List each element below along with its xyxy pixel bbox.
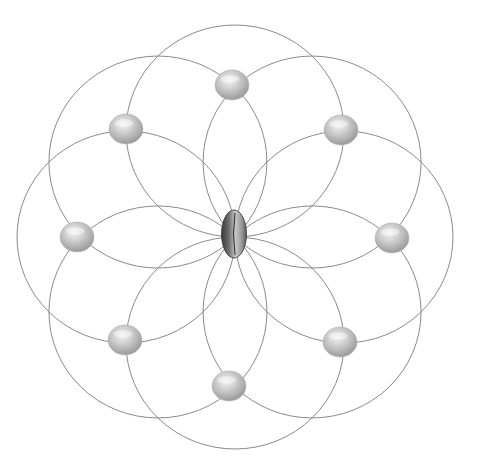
node-bottom-left-highlight [114,330,133,338]
node-right-highlight [381,228,400,236]
node-right [375,223,409,253]
node-bottom-left [108,325,142,355]
node-top-left [109,114,143,144]
node-left [60,222,94,252]
node-bottom-right [323,327,357,357]
node-top-right [324,115,358,145]
node-bottom-highlight [218,376,237,384]
node-top [215,70,249,100]
node-bottom [212,371,246,401]
node-top-left-highlight [115,119,134,127]
ring-south [126,237,344,449]
ring-east [235,131,453,343]
ring-north [126,25,344,237]
node-left-highlight [66,227,85,235]
node-top-highlight [221,75,240,83]
orbit-diagram [0,0,478,466]
ring-west [17,131,235,343]
node-top-right-highlight [330,120,349,128]
nodes-group [60,70,409,401]
node-bottom-right-highlight [329,332,348,340]
